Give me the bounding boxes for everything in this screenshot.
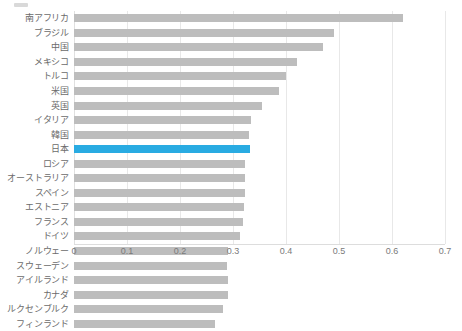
bar[interactable] xyxy=(74,58,297,66)
bar[interactable] xyxy=(74,291,228,299)
bar-row[interactable]: 英国 xyxy=(74,98,445,113)
x-tick-label: 0.2 xyxy=(174,247,187,256)
bar-row[interactable]: カナダ xyxy=(74,287,445,302)
bar-row[interactable]: 南アフリカ xyxy=(74,11,445,26)
bar-row[interactable]: ルクセンブルク xyxy=(74,302,445,317)
bar[interactable] xyxy=(74,174,245,182)
bar[interactable] xyxy=(74,29,334,37)
bar-row[interactable]: フランス xyxy=(74,215,445,230)
bar-row[interactable]: スペイン xyxy=(74,186,445,201)
bar[interactable] xyxy=(74,218,243,226)
category-label: 米国 xyxy=(51,87,69,96)
category-label: 中国 xyxy=(51,43,69,52)
bar[interactable] xyxy=(74,247,228,255)
bar[interactable] xyxy=(74,131,249,139)
bar-row[interactable]: アイルランド xyxy=(74,273,445,288)
bar-highlight[interactable] xyxy=(74,145,250,153)
bar-row[interactable]: エストニア xyxy=(74,200,445,215)
x-tick-label: 0.1 xyxy=(121,247,134,256)
plot-area: 南アフリカブラジル中国メキシコトルコ米国英国イタリア韓国日本ロシアオーストラリア… xyxy=(74,11,445,244)
bar-row[interactable]: ロシア xyxy=(74,156,445,171)
bar[interactable] xyxy=(74,43,323,51)
bar[interactable] xyxy=(74,160,245,168)
category-label: フランス xyxy=(34,217,69,226)
bar-row[interactable]: ブラジル xyxy=(74,26,445,41)
bar[interactable] xyxy=(74,232,240,240)
category-label: イタリア xyxy=(34,116,69,125)
bar[interactable] xyxy=(74,189,245,197)
category-label: ロシア xyxy=(43,159,69,168)
category-label: メキシコ xyxy=(34,57,69,66)
bar[interactable] xyxy=(74,72,286,80)
gridline-0.7 xyxy=(445,11,446,244)
bar-row[interactable]: 米国 xyxy=(74,84,445,99)
x-tick-label: 0.5 xyxy=(333,247,346,256)
bar-row[interactable]: トルコ xyxy=(74,69,445,84)
bar[interactable] xyxy=(74,87,279,95)
x-axis-line xyxy=(74,244,445,245)
bar-row[interactable]: 韓国 xyxy=(74,127,445,142)
bar-row[interactable]: 中国 xyxy=(74,40,445,55)
category-label: アイルランド xyxy=(16,276,69,285)
bar[interactable] xyxy=(74,262,227,270)
category-label: 日本 xyxy=(51,145,69,154)
category-label: 英国 xyxy=(51,101,69,110)
bar-row[interactable]: オーストラリア xyxy=(74,171,445,186)
category-label: フィンランド xyxy=(16,319,69,328)
bar-row[interactable]: スウェーデン xyxy=(74,258,445,273)
category-label: トルコ xyxy=(43,72,69,81)
category-label: ノルウェー xyxy=(25,247,69,256)
category-label: 南アフリカ xyxy=(25,14,69,23)
category-label: 韓国 xyxy=(51,130,69,139)
category-label: ブラジル xyxy=(34,28,69,37)
bar[interactable] xyxy=(74,320,215,328)
bar[interactable] xyxy=(74,203,244,211)
category-label: ルクセンブルク xyxy=(7,305,69,314)
category-label: カナダ xyxy=(43,290,69,299)
x-tick-label: 0.7 xyxy=(439,247,452,256)
x-tick-label: 0 xyxy=(71,247,76,256)
x-tick-label: 0.3 xyxy=(227,247,240,256)
bar-row[interactable]: メキシコ xyxy=(74,55,445,70)
x-tick-label: 0.6 xyxy=(386,247,399,256)
category-label: スウェーデン xyxy=(16,261,69,270)
bar-rows: 南アフリカブラジル中国メキシコトルコ米国英国イタリア韓国日本ロシアオーストラリア… xyxy=(74,11,445,244)
bar[interactable] xyxy=(74,305,223,313)
bar[interactable] xyxy=(74,14,403,22)
bar[interactable] xyxy=(74,102,262,110)
bar-row[interactable]: イタリア xyxy=(74,113,445,128)
x-tick-label: 0.4 xyxy=(280,247,293,256)
bar-row[interactable]: 日本 xyxy=(74,142,445,157)
bar[interactable] xyxy=(74,276,228,284)
category-label: エストニア xyxy=(25,203,69,212)
bar[interactable] xyxy=(74,116,251,124)
category-label: スペイン xyxy=(35,188,69,197)
category-label: オーストラリア xyxy=(7,174,69,183)
bar-row[interactable]: フィンランド xyxy=(74,316,445,331)
category-label: ドイツ xyxy=(43,232,69,241)
chart-top-marker xyxy=(14,3,28,7)
bar-row[interactable]: ドイツ xyxy=(74,229,445,244)
